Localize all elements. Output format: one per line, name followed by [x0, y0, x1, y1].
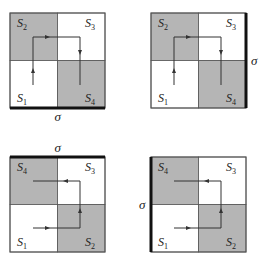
- panel-bottom-right: S4S3S1S2σ: [139, 157, 246, 252]
- cell-bottom-right: [58, 61, 106, 109]
- sigma-label: σ: [139, 197, 146, 212]
- sigma-label: σ: [251, 53, 258, 68]
- diagram-canvas: S2S3S1S4σS2S3S1S4σS4S3S1S2σS4S3S1S2σ: [0, 0, 262, 258]
- sigma-label: σ: [55, 109, 62, 124]
- panel-bottom-left: S4S3S1S2σ: [10, 140, 105, 252]
- panel-top-right: S2S3S1S4σ: [151, 13, 258, 108]
- sigma-label: σ: [55, 140, 62, 155]
- panel-top-left: S2S3S1S4σ: [10, 13, 105, 124]
- cell-bottom-right: [199, 61, 247, 109]
